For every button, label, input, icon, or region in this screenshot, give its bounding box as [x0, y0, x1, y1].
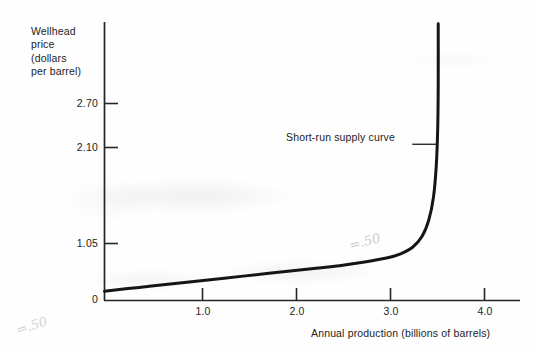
y-axis-title-line-1: Wellhead	[31, 25, 103, 38]
x-tick-label-4-0: 4.0	[465, 305, 505, 317]
y-tick-label-2-10: 2.10	[52, 141, 98, 153]
supply-curve-annotation-label: Short-run supply curve	[286, 131, 395, 143]
y-tick-label-2-70: 2.70	[52, 97, 98, 109]
y-axis-title-line-3: (dollars	[31, 52, 103, 65]
x-tick-label-1-0: 1.0	[183, 305, 223, 317]
y-axis-title: Wellhead price (dollars per barrel)	[31, 25, 103, 79]
x-axis-title: Annual production (billions of barrels)	[311, 327, 490, 339]
short-run-supply-curve	[105, 24, 439, 291]
y-axis-title-line-2: price	[31, 38, 103, 51]
x-tick-label-3-0: 3.0	[371, 305, 411, 317]
y-axis-title-line-4: per barrel)	[31, 65, 103, 78]
x-tick-label-2-0: 2.0	[277, 305, 317, 317]
y-tick-label-1-05: 1.05	[52, 237, 98, 249]
y-tick-label-0: 0	[52, 293, 98, 305]
figure-root: Wellhead price (dollars per barrel) 2.70…	[0, 0, 537, 349]
